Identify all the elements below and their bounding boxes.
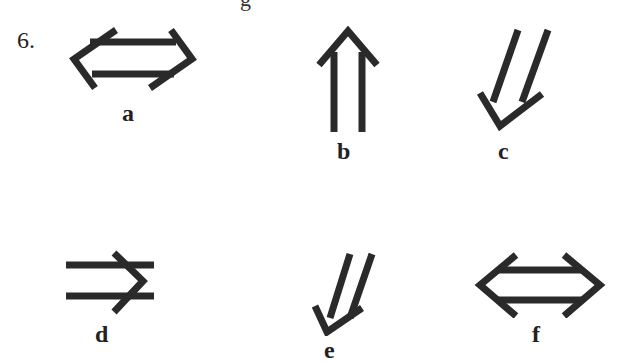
arrow-label-a: a xyxy=(122,100,134,127)
arrow-label-d: d xyxy=(95,321,108,348)
double-arrow-down-left-icon xyxy=(310,252,378,336)
double-arrow-up-icon xyxy=(315,26,381,134)
cut-off-text: g xyxy=(240,0,251,12)
double-headed-double-arrow-horizontal-icon xyxy=(474,252,606,318)
arrow-label-f: f xyxy=(532,321,540,348)
arrow-label-e: e xyxy=(324,337,335,363)
double-headed-double-arrow-horizontal-icon xyxy=(68,26,198,94)
double-arrow-down-left-icon xyxy=(476,26,556,132)
question-number: 6. xyxy=(17,27,35,54)
arrow-label-b: b xyxy=(337,138,350,165)
double-arrow-right-icon xyxy=(66,250,174,320)
arrow-label-c: c xyxy=(498,138,509,165)
